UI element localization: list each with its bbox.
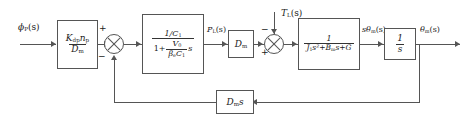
feedback-label: Dms: [226, 97, 243, 107]
output-signal-label: θm(s): [420, 25, 440, 34]
integrator-numerator: 1: [395, 34, 405, 43]
wire-feedback-to-sum1-horizontal: [114, 102, 216, 103]
sum1-plus-sign: +: [99, 24, 107, 33]
sum2-minus-sign: −: [261, 25, 269, 34]
wire-output-takeoff-down: [419, 44, 420, 102]
compliance-numerator: 1/C1: [162, 30, 183, 38]
block-compliance: 1/C1 1+ V0 βeC1 s: [142, 14, 204, 74]
mechanical-denominator: J1s²+Bms+G: [304, 43, 353, 53]
arrowhead-compliance-input: [136, 41, 141, 47]
summing-junction-1: [104, 34, 124, 54]
sum1-minus-sign: −: [98, 52, 106, 61]
wire-integrator-to-output: [416, 44, 460, 45]
gain-numerator: Kdpnp: [64, 34, 91, 44]
arrowhead-displacement-input: [222, 41, 227, 47]
disturbance-signal-label: TL(s): [281, 8, 302, 18]
block-feedback: Dms: [216, 90, 254, 114]
gain-denominator: Dm: [69, 44, 86, 55]
wire-feedback-to-sum1-vertical: [114, 60, 115, 102]
pressure-signal-label: PL(s): [207, 25, 226, 34]
compliance-denominator: 1+ V0 βeC1 s: [152, 38, 195, 58]
integrator-denominator: s: [396, 44, 405, 54]
arrowhead-input: [51, 41, 56, 47]
block-gain: Kdpnp Dm: [57, 20, 98, 69]
arrowhead-integrator-input: [378, 41, 383, 47]
arrowhead-mechanical-input: [292, 41, 297, 47]
block-displacement: Dm: [228, 30, 254, 58]
input-signal-label: ϕP(s): [18, 22, 40, 32]
block-integrator: 1 s: [384, 28, 416, 60]
speed-signal-label: sθm(s): [362, 25, 386, 34]
displacement-label: Dm: [235, 39, 248, 49]
block-mechanical: 1 J1s²+Bms+G: [298, 18, 360, 70]
block-diagram: ϕP(s) Kdpnp Dm + − 1/C1 1+ V0 βeC1 s: [0, 0, 468, 129]
wire-feedback-return-right: [252, 102, 420, 103]
mechanical-numerator: 1: [324, 35, 333, 43]
arrowhead-output: [455, 41, 460, 47]
arrowhead-sum1-feedback: [111, 55, 117, 60]
sum2-plus-sign: +: [261, 48, 269, 57]
